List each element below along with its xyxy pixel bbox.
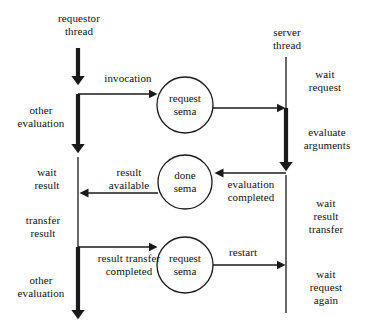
node-label-done-sema: done sema: [158, 169, 212, 195]
state-label-wait-request-again: wait request again: [294, 268, 358, 307]
node-label-request-sema-1: request sema: [157, 92, 213, 118]
state-label-other-evaluation-2: other evaluation: [10, 274, 72, 300]
lane-header-server: server thread: [258, 26, 316, 52]
state-label-other-evaluation-1: other evaluation: [10, 104, 72, 130]
state-label-wait-request: wait request: [296, 68, 354, 94]
edge-label-invocation: invocation: [96, 72, 160, 85]
lane-header-requestor: requestor thread: [48, 12, 110, 38]
edge-label-evaluation-completed: evaluation completed: [216, 178, 286, 204]
edge-label-result-transfer-completed: result transfer completed: [84, 252, 174, 278]
edge-label-result-available: result available: [96, 166, 162, 192]
state-label-evaluate-arguments: evaluate arguments: [293, 126, 361, 152]
diagram-canvas: requestor thread server thread request s…: [0, 0, 365, 332]
state-label-wait-result-transfer: wait result transfer: [294, 197, 358, 236]
state-label-wait-result: wait result: [22, 166, 72, 192]
edge-label-restart: restart: [220, 246, 266, 259]
state-label-transfer-result: transfer result: [14, 214, 72, 240]
